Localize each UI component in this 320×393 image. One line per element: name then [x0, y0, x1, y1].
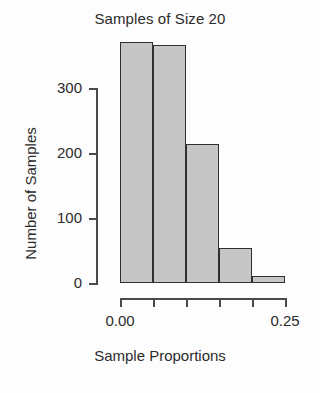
y-tick-label-300: 300 — [26, 79, 82, 96]
x-tick-label-0: 0.00 — [90, 312, 150, 329]
y-tick-300 — [89, 88, 97, 90]
histogram-bar — [219, 248, 252, 283]
y-tick-200 — [89, 153, 97, 155]
histogram-figure: Samples of Size 20 300 200 100 0 Number … — [0, 0, 320, 393]
histogram-bar — [186, 144, 219, 283]
plot-area: 300 200 100 0 Number of Samples 0.00 0.2… — [0, 0, 320, 393]
y-axis-line — [96, 88, 98, 284]
x-tick-5 — [285, 298, 287, 307]
x-tick-1 — [153, 298, 155, 307]
x-tick-4 — [252, 298, 254, 307]
x-tick-2 — [186, 298, 188, 307]
x-tick-0 — [120, 298, 122, 307]
x-tick-label-5: 0.25 — [255, 312, 315, 329]
x-axis-title: Sample Proportions — [0, 347, 320, 364]
histogram-bar — [153, 45, 186, 283]
histogram-bar — [252, 276, 285, 283]
histogram-bar — [120, 42, 153, 283]
y-axis-title: Number of Samples — [22, 104, 39, 284]
x-axis-line — [120, 298, 285, 300]
y-tick-0 — [89, 283, 97, 285]
y-tick-100 — [89, 218, 97, 220]
x-tick-3 — [219, 298, 221, 307]
